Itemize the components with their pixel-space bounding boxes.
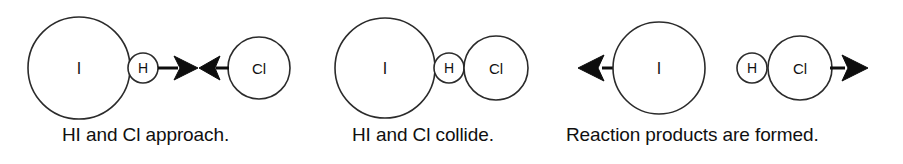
atom-label-chlorine-panel2: Cl [489, 60, 503, 77]
panel-collide-graphics: I H Cl [335, 18, 528, 118]
motion-arrow-left-panel1 [199, 56, 229, 80]
motion-arrow-left-panel3 [578, 55, 616, 81]
atom-label-iodine-panel3: I [657, 60, 661, 77]
atom-label-iodine-panel2: I [383, 60, 387, 77]
motion-arrow-right-panel3 [830, 55, 868, 81]
atom-label-iodine-panel1: I [77, 60, 81, 77]
atom-label-hydrogen-panel2: H [444, 60, 454, 76]
panel-approach-graphics: I H Cl [28, 17, 290, 119]
reaction-diagram: I H Cl I H Cl [0, 0, 903, 164]
atom-label-hydrogen-panel3: H [747, 60, 757, 76]
atom-label-chlorine-panel1: Cl [252, 60, 266, 77]
caption-panel-collide: HI and Cl collide. [352, 124, 494, 146]
caption-panel-products: Reaction products are formed. [566, 124, 819, 146]
caption-panel-approach: HI and Cl approach. [62, 124, 229, 146]
motion-arrow-right-panel1 [158, 56, 198, 80]
panel-products-graphics: I H Cl [578, 22, 868, 114]
atom-label-hydrogen-panel1: H [138, 60, 148, 76]
atom-label-chlorine-panel3: Cl [793, 60, 807, 77]
